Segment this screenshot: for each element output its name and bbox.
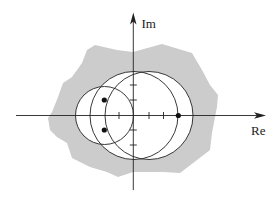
imaginary-axis-label: Im (142, 16, 156, 31)
point-real (176, 113, 181, 118)
point-upper (102, 97, 107, 102)
complex-plane-diagram: Im Re (0, 0, 280, 198)
real-axis-label: Re (251, 123, 266, 138)
point-lower (102, 127, 107, 132)
